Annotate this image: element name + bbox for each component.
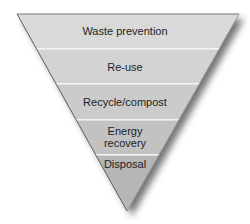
level-label-waste-prevention: Waste prevention — [0, 25, 250, 37]
divider-1 — [0, 48, 250, 50]
level-label-energy-recovery-line2: recovery — [0, 137, 250, 149]
divider-2 — [0, 83, 250, 85]
level-label-energy-recovery-line1: Energy — [0, 125, 250, 137]
level-label-energy-recovery: Energy recovery — [0, 125, 250, 149]
divider-3 — [0, 119, 250, 121]
level-label-recycle-compost: Recycle/compost — [0, 96, 250, 108]
level-label-disposal: Disposal — [0, 158, 250, 170]
level-label-re-use: Re-use — [0, 61, 250, 73]
waste-hierarchy-diagram: Waste prevention Re-use Recycle/compost … — [0, 0, 250, 224]
divider-4 — [0, 154, 250, 156]
